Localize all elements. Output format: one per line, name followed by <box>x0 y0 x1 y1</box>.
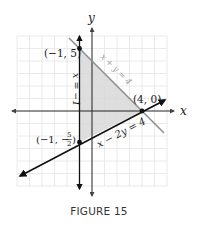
point-neg1-neg5half <box>77 140 82 145</box>
label-x-eq-neg1: x = −1 <box>71 73 82 106</box>
svg-text:): ) <box>72 134 76 145</box>
x-axis-label: x <box>180 104 187 118</box>
svg-text:5: 5 <box>67 131 71 139</box>
label-point-4-0: (4, 0) <box>133 93 161 105</box>
linear-inequalities-graph: y x (−1, 5) (4, 0) (−1, − 5 2 ) x + y = … <box>0 0 198 226</box>
label-point-neg1-5: (−1, 5) <box>44 47 81 59</box>
figure-caption: FIGURE 15 <box>0 205 198 217</box>
svg-text:(−1, −: (−1, − <box>36 134 69 145</box>
svg-text:2: 2 <box>67 140 71 148</box>
point-4-0 <box>140 109 145 114</box>
y-axis-label: y <box>87 11 95 25</box>
